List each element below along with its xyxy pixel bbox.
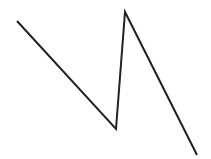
zigzag-stroke (17, 12, 197, 155)
drawing-canvas (0, 0, 211, 159)
